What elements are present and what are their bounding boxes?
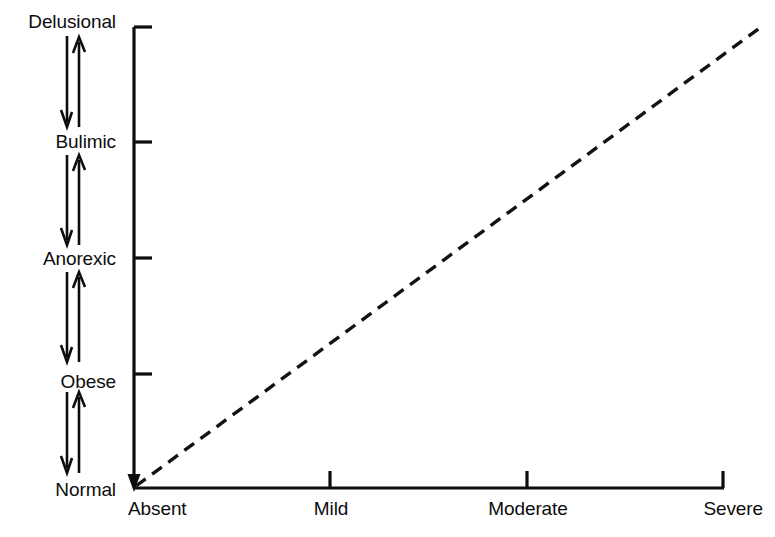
arrow-pair-anorexic-obese	[61, 272, 85, 362]
y-axis-label-delusional: Delusional	[28, 12, 116, 31]
y-axis-label-bulimic: Bulimic	[55, 132, 116, 151]
y-axis-label-normal: Normal	[55, 480, 116, 499]
arrow-pair-obese-normal	[61, 392, 85, 473]
chart-canvas	[0, 0, 775, 537]
x-axis-label-absent: Absent	[128, 499, 187, 518]
x-axis	[134, 471, 724, 488]
arrow-pair-delusional-bulimic	[61, 36, 85, 127]
arrow-pair-bulimic-anorexic	[61, 155, 85, 245]
dashed-trend-line	[136, 27, 761, 486]
data-series-line	[136, 27, 761, 486]
y-axis-label-obese: Obese	[61, 372, 116, 391]
x-axis-label-mild: Mild	[314, 499, 348, 518]
y-axis	[128, 27, 153, 492]
x-axis-label-severe: Severe	[703, 499, 763, 518]
x-axis-label-moderate: Moderate	[488, 499, 567, 518]
y-axis-label-anorexic: Anorexic	[43, 249, 116, 268]
chart-figure: Delusional Bulimic Anorexic Obese Normal…	[0, 0, 775, 537]
